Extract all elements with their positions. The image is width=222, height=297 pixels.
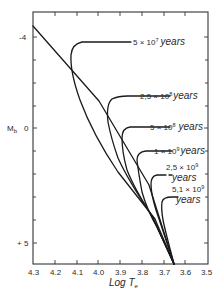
svg-text:3.8: 3.8 xyxy=(137,268,149,277)
isochrone-label-5e8: 5 × 108years xyxy=(150,121,203,132)
isochrone-label-5e7: 5 × 107years xyxy=(133,36,185,47)
y-tick-label-0: 0 xyxy=(24,124,29,133)
top-ticks xyxy=(55,12,185,16)
y-axis-label: Mb xyxy=(7,124,18,134)
y-tick-label-minus4: -4 xyxy=(19,33,27,42)
right-ticks xyxy=(204,37,208,243)
svg-text:3.7: 3.7 xyxy=(159,268,171,277)
svg-text:4.2: 4.2 xyxy=(50,268,62,277)
isochrone-label-2-5e9-number: 2,5 × 109 xyxy=(166,162,198,172)
isochrone-label-5-1e9-number: 5,1 × 109 xyxy=(172,184,204,194)
svg-text:4.0: 4.0 xyxy=(93,268,105,277)
isochrone-label-5-1e9-unit: years xyxy=(175,194,200,205)
svg-text:4.1: 4.1 xyxy=(72,268,84,277)
y-tick-label-plus5: + 5 xyxy=(17,239,29,248)
isochrone-label-2-5e9-unit: years xyxy=(171,172,196,183)
bottom-ticks xyxy=(55,260,185,264)
left-ticks xyxy=(33,37,37,243)
svg-text:4.3: 4.3 xyxy=(28,268,40,277)
svg-text:3.6: 3.6 xyxy=(180,268,192,277)
isochrone-label-2-5e8: 2,5 × 108years xyxy=(140,90,198,101)
svg-text:3.9: 3.9 xyxy=(115,268,127,277)
x-axis-label: Log Te xyxy=(109,277,139,289)
svg-text:3.5: 3.5 xyxy=(201,268,213,277)
zams-line xyxy=(33,26,174,264)
isochrone-label-1e9: 1 × 109years xyxy=(154,145,205,156)
x-tick-labels: 4.3 4.2 4.1 4.0 3.9 3.8 3.7 3.6 3.5 xyxy=(28,268,213,277)
hr-diagram-chart: -4 0 + 5 Mb 4.3 4.2 4.1 4.0 3.9 3.8 3.7 … xyxy=(0,0,222,297)
